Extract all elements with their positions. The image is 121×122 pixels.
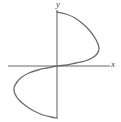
y-axis-label: y [56,0,60,9]
x-axis-label: x [111,60,115,69]
math-figure: y x [0,0,121,122]
plot-canvas [0,0,121,122]
axes-group [8,10,110,118]
